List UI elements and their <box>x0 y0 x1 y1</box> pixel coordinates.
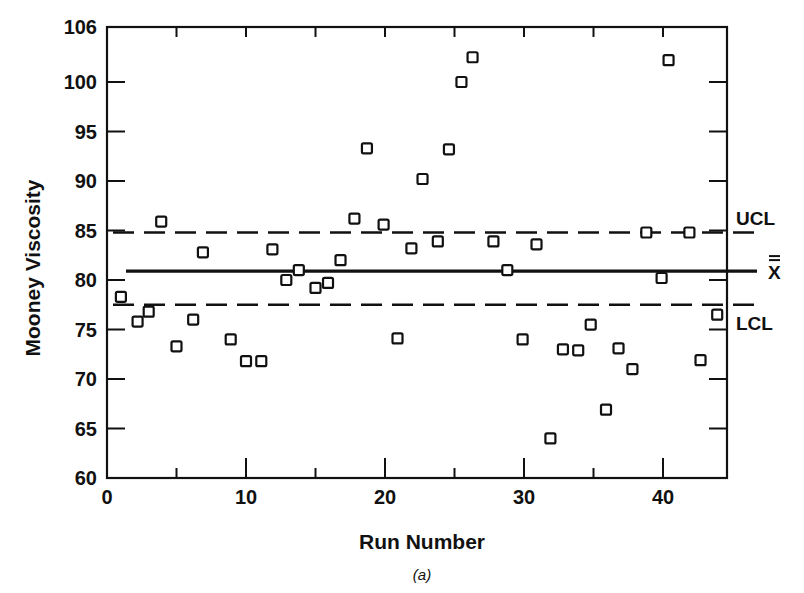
data-point <box>349 214 359 224</box>
data-point <box>267 244 277 254</box>
y-tick-label: 106 <box>64 16 97 38</box>
data-point <box>188 315 198 325</box>
data-point <box>418 174 428 184</box>
data-point <box>241 356 251 366</box>
x-tick-label: 10 <box>235 486 257 508</box>
data-point <box>198 247 208 257</box>
ucl-label: UCL <box>736 208 775 229</box>
figure-caption: (a) <box>413 566 431 583</box>
x-tick-label: 40 <box>652 486 674 508</box>
y-tick-label: 80 <box>75 269 97 291</box>
y-axis-title: Mooney Viscosity <box>21 179 44 356</box>
data-point <box>657 273 667 283</box>
data-point <box>393 333 403 343</box>
data-point <box>444 144 454 154</box>
y-tick-label: 90 <box>75 170 97 192</box>
data-point <box>502 265 512 275</box>
data-point <box>379 220 389 230</box>
data-point <box>545 433 555 443</box>
data-point <box>641 227 651 237</box>
lcl-label: LCL <box>736 313 773 334</box>
data-point <box>133 317 143 327</box>
data-point <box>573 345 583 355</box>
y-tick-label: 95 <box>75 121 97 143</box>
data-point <box>601 405 611 415</box>
y-tick-label: 60 <box>75 467 97 489</box>
x-double-bar-label: X <box>768 262 781 283</box>
y-tick-label: 85 <box>75 220 97 242</box>
data-point <box>532 239 542 249</box>
data-point <box>518 334 528 344</box>
data-point <box>144 307 154 317</box>
data-point <box>281 275 291 285</box>
data-point <box>172 341 182 351</box>
data-point <box>433 236 443 246</box>
data-point <box>226 334 236 344</box>
x-axis-title: Run Number <box>359 530 485 553</box>
x-tick-label: 0 <box>101 486 112 508</box>
data-point <box>362 143 372 153</box>
x-axis: 010203040 <box>101 27 674 508</box>
data-point <box>586 320 596 330</box>
data-point <box>456 77 466 87</box>
x-tick-label: 30 <box>513 486 535 508</box>
data-point <box>488 236 498 246</box>
data-point <box>323 278 333 288</box>
y-tick-label: 100 <box>64 71 97 93</box>
data-point <box>627 364 637 374</box>
data-point <box>156 217 166 227</box>
y-tick-label: 75 <box>75 319 97 341</box>
data-point <box>294 265 304 275</box>
control-chart: 010203040 6065707580859095100106 UCLXLCL… <box>0 0 804 593</box>
y-tick-label: 70 <box>75 368 97 390</box>
control-limit-lines: UCLXLCL <box>113 208 781 333</box>
data-point <box>406 243 416 253</box>
data-point <box>664 55 674 65</box>
data-point <box>116 292 126 302</box>
data-point <box>336 255 346 265</box>
data-point <box>468 52 478 62</box>
data-point <box>696 355 706 365</box>
y-axis: 6065707580859095100106 <box>64 16 727 489</box>
data-points <box>116 52 722 443</box>
data-point <box>684 227 694 237</box>
data-point <box>614 343 624 353</box>
y-tick-label: 65 <box>75 418 97 440</box>
data-point <box>558 344 568 354</box>
data-point <box>311 283 321 293</box>
data-point <box>712 310 722 320</box>
x-tick-label: 20 <box>374 486 396 508</box>
data-point <box>256 356 266 366</box>
